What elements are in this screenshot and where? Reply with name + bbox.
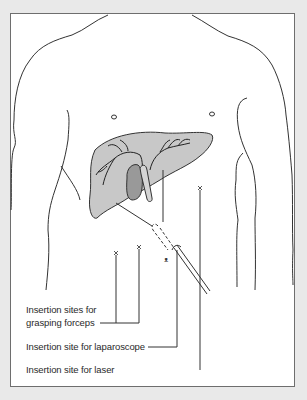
nipple-left [112, 115, 117, 119]
laparoscope-internal [152, 224, 174, 250]
label-forceps-line2: grasping forceps [26, 317, 95, 329]
nipple-right [210, 112, 215, 116]
label-laparoscope: Insertion site for laparoscope [26, 341, 145, 353]
liver [89, 132, 212, 218]
torso-diagram: ᴥ [0, 0, 307, 400]
label-forceps-line1: Insertion sites for [26, 304, 96, 316]
label-laser: Insertion site for laser [26, 364, 114, 376]
liver-pointer [116, 203, 152, 226]
laparoscope-external [172, 245, 210, 294]
eye-icon: ᴥ [164, 256, 169, 264]
